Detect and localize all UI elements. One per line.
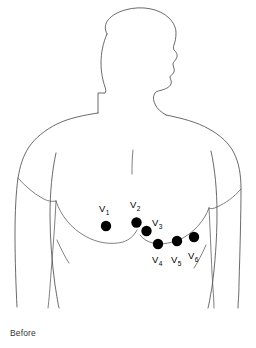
electrode-label-v2: V2 [130,199,141,212]
label-subscript: 1 [106,209,110,216]
label-subscript: 3 [159,223,163,230]
electrode-label-v3: V3 [152,217,163,230]
electrode-dot-v3[interactable] [141,226,151,236]
head-profile-outline [105,8,177,115]
electrode-dot-v1[interactable] [101,221,111,231]
right-shoulder-arm-outline [166,115,241,308]
electrode-dot-v2[interactable] [131,217,141,227]
label-subscript: 4 [159,260,163,267]
left-pectoral-crease [56,201,137,243]
electrode-label-v5: V5 [171,254,182,267]
label-subscript: 5 [178,260,182,267]
electrode-label-v6: V6 [188,250,199,263]
label-subscript: 2 [137,205,141,212]
right-inner-arm-outline [209,208,214,308]
head-back-neck-outline [98,34,107,113]
electrode-dot-group [101,217,199,249]
electrode-dot-v5[interactable] [172,236,182,246]
sternum-midline [132,150,133,174]
electrode-dot-v4[interactable] [153,239,163,249]
left-shoulder-arm-outline [15,113,98,307]
electrode-label-v1: V1 [99,203,110,216]
electrode-label-v4: V4 [152,254,163,267]
right-armpit-crease [209,189,241,209]
label-subscript: 6 [195,256,199,263]
electrode-dot-v6[interactable] [189,232,199,242]
ecg-electrode-diagram: V1V2V3V4V5V6 Before [0,0,256,348]
left-flank-crease [57,240,69,263]
caption-before: Before [10,328,36,338]
torso-illustration: V1V2V3V4V5V6 [0,0,256,348]
